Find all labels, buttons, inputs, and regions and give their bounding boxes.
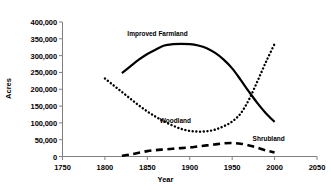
x-tick-label: 1750 <box>54 163 71 172</box>
x-tick-label: 2000 <box>266 163 283 172</box>
y-axis-title: Acres <box>4 69 13 109</box>
x-tick-label: 1800 <box>97 163 114 172</box>
x-tick-label: 2050 <box>309 163 326 172</box>
acres-by-land-type-chart: 050,000100,000150,000200,000250,000300,0… <box>0 0 331 190</box>
x-axis-title: Year <box>0 175 331 184</box>
x-tick-label: 1950 <box>224 163 241 172</box>
x-tick-label: 1850 <box>139 163 156 172</box>
series-annotation: Improved Farmland <box>127 29 187 36</box>
series-annotation: Shrubland <box>253 134 285 141</box>
x-tick-label: 1900 <box>181 163 198 172</box>
series-annotation: Woodland <box>160 116 191 123</box>
